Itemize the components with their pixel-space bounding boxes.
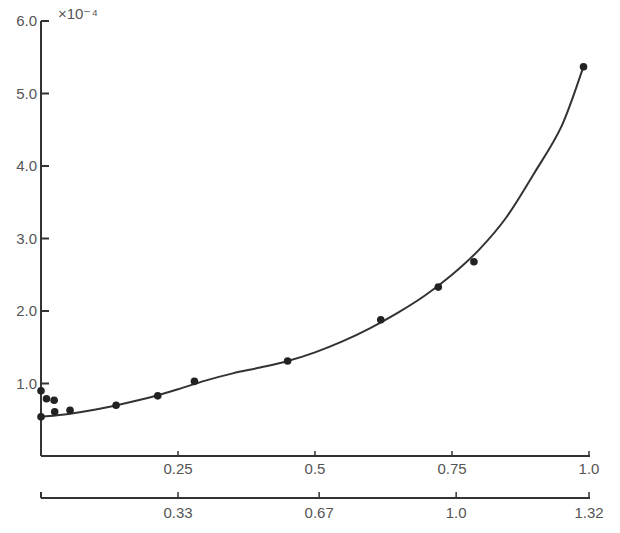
data-point bbox=[470, 258, 478, 266]
data-point bbox=[66, 407, 74, 415]
x2-tick-label: 0.33 bbox=[163, 504, 192, 521]
x2-tick-label: 1.32 bbox=[574, 504, 603, 521]
x-tick-label: 0.25 bbox=[163, 460, 192, 477]
data-point bbox=[154, 392, 162, 400]
data-point bbox=[191, 378, 199, 386]
data-point bbox=[112, 401, 120, 409]
data-point bbox=[435, 283, 443, 291]
y-multiplier-label: ×10⁻⁴ bbox=[58, 5, 98, 22]
x-tick-label: 1.0 bbox=[579, 460, 600, 477]
data-point bbox=[377, 316, 385, 324]
data-point bbox=[50, 396, 58, 404]
data-point bbox=[51, 408, 59, 416]
data-point bbox=[37, 413, 45, 421]
x-axis-secondary-ticks: 0.330.671.01.32 bbox=[163, 492, 603, 521]
x-axis-secondary bbox=[41, 492, 590, 498]
y-tick-label: 4.0 bbox=[16, 157, 37, 174]
y-ticks: 1.02.03.04.05.06.0 bbox=[16, 12, 49, 392]
x2-tick-label: 0.67 bbox=[305, 504, 334, 521]
y-tick-label: 2.0 bbox=[16, 302, 37, 319]
x-axis-primary-ticks: 0.250.50.751.0 bbox=[163, 451, 599, 477]
x2-tick-label: 1.0 bbox=[446, 504, 467, 521]
fitted-curve bbox=[41, 67, 584, 417]
y-tick-label: 3.0 bbox=[16, 230, 37, 247]
data-points bbox=[37, 63, 587, 421]
data-point bbox=[580, 63, 588, 71]
y-tick-label: 1.0 bbox=[16, 375, 37, 392]
data-point bbox=[37, 387, 45, 395]
y-tick-label: 5.0 bbox=[16, 85, 37, 102]
y-tick-label: 6.0 bbox=[16, 12, 37, 29]
chart: 1.02.03.04.05.06.0 ×10⁻⁴ 0.250.50.751.0 … bbox=[0, 0, 620, 533]
x-tick-label: 0.75 bbox=[437, 460, 466, 477]
data-point bbox=[284, 357, 292, 365]
x-tick-label: 0.5 bbox=[305, 460, 326, 477]
data-point bbox=[43, 395, 51, 403]
